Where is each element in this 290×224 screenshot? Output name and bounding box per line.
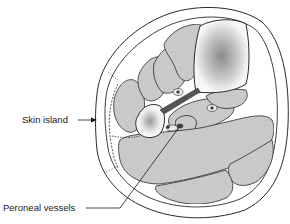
anterior-tibial-vessels: [173, 89, 183, 96]
leg-cross-section-diagram: [0, 0, 290, 224]
tibia-bone: [194, 20, 249, 93]
posterior-tibial-vessels: [207, 105, 217, 112]
skin-island-label: Skin island: [22, 115, 68, 125]
peroneal-vessels-label: Peroneal vessels: [3, 203, 75, 213]
